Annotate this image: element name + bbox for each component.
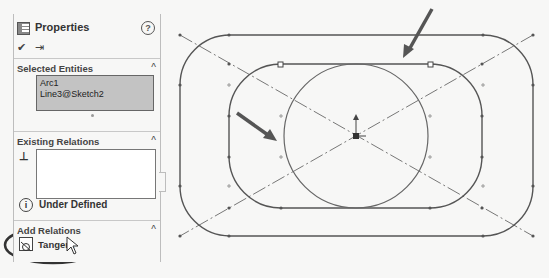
selected-endpoint[interactable]: [278, 62, 283, 67]
tangent-relation-button[interactable]: Tangent: [19, 236, 99, 254]
section-title: Selected Entities: [17, 63, 93, 74]
status-text: Under Defined: [39, 199, 107, 210]
collapse-caret-icon[interactable]: ^: [151, 224, 156, 235]
origin-icon: [353, 114, 366, 139]
property-manager-icon: [17, 22, 30, 35]
panel-collapse-tab[interactable]: [159, 172, 166, 192]
selected-endpoint[interactable]: [428, 62, 433, 67]
collapse-caret-icon[interactable]: ^: [151, 135, 156, 146]
property-manager-panel: Properties ? ✔ ⇥ Selected Entities ^ Arc…: [13, 14, 161, 262]
section-title: Add Relations: [17, 225, 81, 236]
callout-arrow-left: [237, 113, 277, 141]
panel-header: Properties ?: [17, 21, 157, 39]
tangent-icon: [19, 237, 33, 251]
resize-handle[interactable]: [91, 114, 94, 117]
existing-relations-list[interactable]: [36, 149, 156, 199]
ok-checkmark-icon[interactable]: ✔: [17, 41, 26, 53]
list-item[interactable]: Line3@Sketch2: [40, 89, 150, 100]
list-item[interactable]: Arc1: [40, 78, 150, 89]
selected-entities-list[interactable]: Arc1 Line3@Sketch2: [36, 75, 154, 111]
panel-title: Properties: [35, 21, 89, 33]
help-icon[interactable]: ?: [141, 21, 155, 35]
selected-entities-section: Selected Entities ^ Arc1 Line3@Sketch2: [14, 58, 160, 132]
collapse-caret-icon[interactable]: ^: [151, 62, 156, 73]
callout-arrow-top: [403, 9, 432, 58]
relation-icon: ⊥: [19, 150, 29, 163]
panel-actions: ✔ ⇥: [17, 41, 50, 54]
section-title: Existing Relations: [17, 136, 99, 147]
pushpin-icon[interactable]: ⇥: [35, 41, 44, 53]
info-icon: i: [19, 198, 33, 212]
sketch-status: iUnder Defined: [19, 198, 107, 212]
mouse-cursor-icon: [66, 236, 80, 256]
